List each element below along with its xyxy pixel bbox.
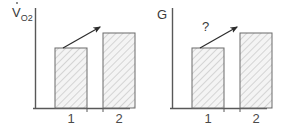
x-tick-label-2: 2	[109, 112, 129, 125]
right-panel: G ?	[145, 0, 289, 133]
x-tick-label-2: 2	[246, 112, 266, 125]
x-tick-label-1: 1	[198, 112, 218, 125]
bar-category-1	[55, 48, 87, 108]
left-panel: VO2 1	[0, 0, 145, 133]
question-mark-annotation: ?	[202, 20, 209, 33]
bar-category-1	[192, 48, 224, 108]
x-tick-label-1: 1	[61, 112, 81, 125]
trend-arrow	[63, 27, 100, 48]
bar-category-2	[240, 33, 272, 108]
bar-category-2	[103, 33, 135, 108]
two-panel-bar-chart-figure: VO2 1	[0, 0, 289, 133]
